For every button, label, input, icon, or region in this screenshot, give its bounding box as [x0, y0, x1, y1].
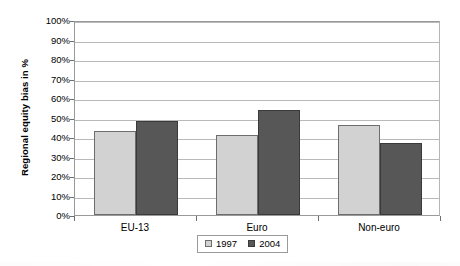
x-axis-tick-mark	[74, 216, 75, 221]
y-axis-tick-label: 0%	[36, 211, 70, 221]
gridline	[75, 42, 439, 43]
legend-label: 2004	[259, 238, 280, 249]
y-axis-tick-label: 70%	[36, 75, 70, 85]
y-axis-tick-label: 30%	[36, 153, 70, 163]
bar-eu-13-2004	[136, 121, 178, 215]
x-axis-category-label: EU-13	[121, 222, 149, 233]
y-axis-tick-label: 10%	[36, 192, 70, 202]
bar-euro-1997	[216, 135, 258, 215]
gridline	[75, 100, 439, 101]
regional-equity-bias-bar-chart: Regional equity bias in % 0%10%20%30%40%…	[0, 0, 460, 266]
x-axis-tick-mark	[318, 216, 319, 221]
y-axis-tick-label: 80%	[36, 55, 70, 65]
y-axis-tick-label: 50%	[36, 114, 70, 124]
y-axis-title: Regional equity bias in %	[19, 15, 30, 220]
legend-entry-2004: 2004	[248, 238, 280, 249]
plot-area	[74, 21, 440, 216]
bar-eu-13-1997	[94, 131, 136, 215]
y-axis-tick-label: 60%	[36, 94, 70, 104]
bar-non-euro-2004	[380, 143, 422, 215]
legend-swatch-icon	[205, 240, 212, 247]
x-axis-tick-mark	[196, 216, 197, 221]
x-axis-category-label: Non-euro	[358, 222, 400, 233]
gridline	[75, 81, 439, 82]
x-axis-tick-mark	[440, 216, 441, 221]
y-axis-tick-label: 100%	[36, 16, 70, 26]
legend-swatch-icon	[248, 240, 255, 247]
y-axis-tick-label: 20%	[36, 172, 70, 182]
chart-legend: 19972004	[197, 235, 288, 253]
y-axis-tick-label: 90%	[36, 36, 70, 46]
bar-non-euro-1997	[338, 125, 380, 215]
y-axis-tick-label: 40%	[36, 133, 70, 143]
legend-label: 1997	[216, 238, 237, 249]
x-axis-category-label: Euro	[246, 222, 267, 233]
legend-entry-1997: 1997	[205, 238, 237, 249]
scan-edge-artifact	[0, 262, 460, 266]
bar-euro-2004	[258, 110, 300, 215]
gridline	[75, 61, 439, 62]
gridline	[75, 22, 439, 23]
gridline	[75, 120, 439, 121]
